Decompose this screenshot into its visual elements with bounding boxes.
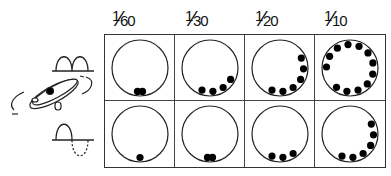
dot: [209, 154, 216, 161]
dot: [209, 88, 216, 95]
dot: [344, 41, 351, 48]
dot: [297, 76, 304, 83]
column-header-1-30: 1⁄30: [185, 6, 208, 32]
dot: [139, 88, 146, 95]
dot: [364, 49, 371, 56]
half-wave-icon: [52, 124, 94, 156]
column-header-1-20: 1⁄20: [255, 6, 278, 32]
cell-full-wave-rectified-1-20: [245, 35, 315, 101]
cell-half-wave-rectified-1-30: [175, 101, 245, 167]
cell-full-wave-rectified-1-30: [175, 35, 245, 101]
dot: [369, 71, 376, 78]
turntable-icon: [12, 74, 92, 114]
dot: [355, 43, 362, 50]
dot: [268, 153, 275, 160]
dot: [279, 154, 286, 161]
dot: [136, 154, 143, 161]
dot: [298, 55, 305, 62]
disc-outline: [252, 106, 308, 162]
dot: [198, 87, 205, 94]
disc-outline: [322, 106, 378, 162]
dot: [326, 53, 333, 60]
dot: [343, 88, 350, 95]
cell-full-wave-rectified-1-10: [315, 35, 385, 101]
disc-outline: [252, 40, 308, 96]
dot: [300, 65, 307, 72]
dot: [367, 142, 374, 149]
dot: [334, 45, 341, 52]
dot: [279, 88, 286, 95]
dot: [354, 87, 361, 94]
dot: [227, 76, 234, 83]
cell-full-wave-rectified-1-60: [105, 35, 175, 101]
dot: [268, 87, 275, 94]
dot: [368, 121, 375, 128]
dot: [349, 154, 356, 161]
stroboscope-illustration: [0, 0, 104, 176]
dot: [220, 84, 227, 91]
dot: [369, 59, 376, 66]
dot: [338, 153, 345, 160]
column-header-1-60: 1⁄60: [112, 6, 135, 32]
disc-outline: [182, 106, 238, 162]
full-wave-icon: [52, 57, 94, 71]
disc-outline: [182, 40, 238, 96]
dot: [360, 150, 367, 157]
dot: [364, 80, 371, 87]
cell-half-wave-rectified-1-10: [315, 101, 385, 167]
disc-outline: [112, 106, 168, 162]
disc-outline: [322, 40, 378, 96]
disc-outline: [112, 40, 168, 96]
cell-half-wave-rectified-1-20: [245, 101, 315, 167]
dot: [370, 131, 377, 138]
cell-half-wave-rectified-1-60: [105, 101, 175, 167]
dot: [290, 150, 297, 157]
column-header-1-10: 1⁄10: [324, 6, 347, 32]
stroboscope-grid: [104, 34, 386, 168]
dot: [333, 84, 340, 91]
dot: [290, 84, 297, 91]
dot: [323, 63, 330, 70]
